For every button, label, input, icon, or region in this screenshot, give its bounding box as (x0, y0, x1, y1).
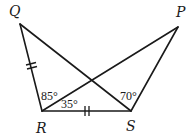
angle-label-qrp: 85° (41, 89, 58, 103)
vertex-label-q: Q (9, 3, 21, 19)
tick-marks-qr (26, 63, 37, 70)
vertex-label-r: R (35, 120, 47, 136)
vertex-label-p: P (175, 4, 186, 20)
segment-sp (131, 27, 178, 111)
vertex-label-s: S (126, 118, 136, 134)
geometry-diagram: Q P R S 85° 35° 70° (0, 0, 195, 136)
angle-label-prs: 35° (61, 97, 78, 111)
angle-label-qsr: 70° (120, 89, 137, 103)
